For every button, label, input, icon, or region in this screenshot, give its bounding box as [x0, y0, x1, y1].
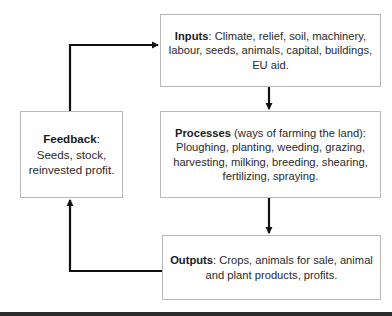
outputs-text: Outputs: Crops, animals for sale, animal…	[169, 253, 374, 282]
processes-box: Processes (ways of farming the land): Pl…	[160, 111, 381, 198]
outputs-heading: Outputs	[170, 254, 213, 266]
processes-text: Processes (ways of farming the land): Pl…	[167, 126, 374, 184]
feedback-separator: :	[97, 132, 100, 145]
feedback-body: Seeds, stock, reinvested profit.	[29, 148, 115, 177]
arrow-outputs-to-feedback	[70, 200, 162, 271]
bottom-rule	[0, 312, 392, 316]
feedback-text: Feedback: Seeds, stock, reinvested profi…	[27, 131, 116, 178]
feedback-box: Feedback: Seeds, stock, reinvested profi…	[20, 111, 123, 198]
arrow-feedback-to-inputs	[70, 45, 158, 111]
outputs-box: Outputs: Crops, animals for sale, animal…	[162, 235, 381, 300]
processes-heading: Processes	[175, 127, 231, 139]
inputs-box: Inputs: Climate, relief, soil, machinery…	[160, 14, 381, 87]
inputs-text: Inputs: Climate, relief, soil, machinery…	[167, 29, 374, 73]
outputs-body: Crops, animals for sale, animal and plan…	[206, 254, 373, 281]
feedback-heading: Feedback	[43, 132, 97, 145]
inputs-heading: Inputs	[175, 30, 209, 42]
